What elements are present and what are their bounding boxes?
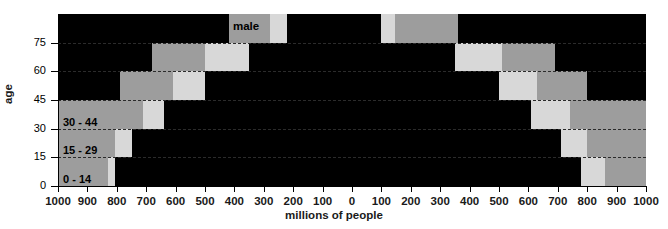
x-axis-title: millions of people bbox=[0, 209, 668, 221]
y-axis-tick bbox=[51, 186, 58, 187]
y-axis-tick-label: 0 bbox=[0, 180, 46, 191]
bar-row bbox=[58, 157, 646, 186]
bar-segment-inner bbox=[352, 129, 561, 158]
y-axis-tick-label: 30 bbox=[0, 123, 46, 134]
y-axis-tick bbox=[51, 43, 58, 44]
x-axis-tick bbox=[176, 186, 177, 192]
plot-area bbox=[58, 14, 646, 186]
y-axis-tick bbox=[51, 129, 58, 130]
x-axis-tick-label: 1000 bbox=[623, 195, 668, 207]
x-axis-tick bbox=[352, 186, 353, 192]
bar-row bbox=[58, 14, 646, 43]
x-axis-tick bbox=[146, 186, 147, 192]
x-axis-tick bbox=[234, 186, 235, 192]
bar-segment-inner bbox=[352, 157, 581, 186]
y-axis-tick bbox=[51, 71, 58, 72]
category-label: 15 - 29 bbox=[63, 145, 97, 156]
x-axis-tick bbox=[411, 186, 412, 192]
x-axis-tick bbox=[381, 186, 382, 192]
x-axis-tick bbox=[558, 186, 559, 192]
x-axis-tick bbox=[617, 186, 618, 192]
bar-segment-inner bbox=[352, 43, 455, 72]
x-axis-tick bbox=[470, 186, 471, 192]
x-axis-tick bbox=[528, 186, 529, 192]
bar-segment-inner bbox=[352, 71, 499, 100]
x-axis-tick bbox=[264, 186, 265, 192]
x-axis-tick bbox=[117, 186, 118, 192]
bar-segment-inner bbox=[352, 100, 531, 129]
x-axis-tick bbox=[293, 186, 294, 192]
x-axis-tick bbox=[205, 186, 206, 192]
population-pyramid-chart: 01530456075 1000900800700600500400300200… bbox=[0, 0, 668, 229]
category-label: 60 - 74 bbox=[63, 59, 97, 70]
y-axis-tick-label: 60 bbox=[0, 65, 46, 76]
x-axis-tick bbox=[587, 186, 588, 192]
category-label: 45 - 59 bbox=[63, 88, 97, 99]
category-label: 30 - 44 bbox=[63, 117, 97, 128]
bar-row bbox=[58, 71, 646, 100]
series-label-female: female bbox=[475, 20, 511, 32]
y-axis-title: age bbox=[2, 84, 14, 104]
x-axis-tick bbox=[323, 186, 324, 192]
x-axis-tick bbox=[646, 186, 647, 192]
category-label: 0 - 14 bbox=[63, 174, 91, 185]
series-label-male: male bbox=[233, 20, 259, 32]
bar-row bbox=[58, 43, 646, 72]
bar-segment-inner bbox=[352, 14, 381, 43]
x-axis-tick bbox=[87, 186, 88, 192]
y-axis-tick-label: 15 bbox=[0, 151, 46, 162]
category-label: 75 and older bbox=[63, 31, 128, 42]
x-axis-tick bbox=[58, 186, 59, 192]
y-axis-tick bbox=[51, 157, 58, 158]
y-axis-line bbox=[58, 14, 59, 186]
x-axis-tick bbox=[440, 186, 441, 192]
y-axis-tick-label: 75 bbox=[0, 37, 46, 48]
bar-row bbox=[58, 100, 646, 129]
y-axis-tick bbox=[51, 100, 58, 101]
bar-row bbox=[58, 129, 646, 158]
x-axis-tick bbox=[499, 186, 500, 192]
